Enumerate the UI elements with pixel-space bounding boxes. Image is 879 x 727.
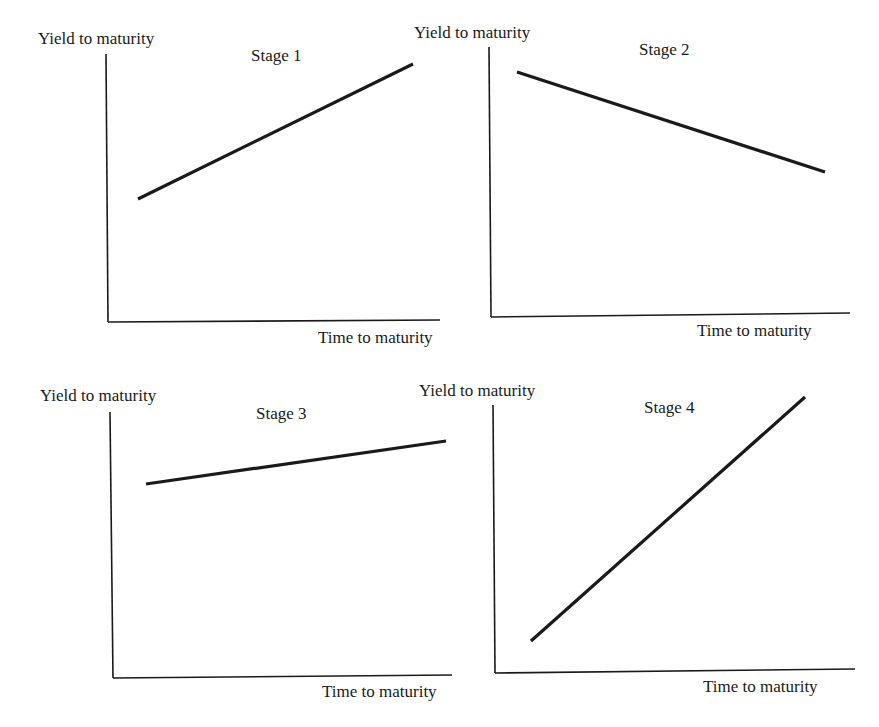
panel-4-y-axis-label: Yield to maturity bbox=[419, 382, 535, 399]
panel-2-title: Stage 2 bbox=[639, 41, 690, 58]
panel-4-title: Stage 4 bbox=[644, 399, 695, 416]
panel-1-y-axis-label: Yield to maturity bbox=[38, 30, 154, 47]
panel-4-x-axis bbox=[495, 669, 855, 673]
panel-4-yield-curve bbox=[531, 397, 805, 641]
panel-2-y-axis-label: Yield to maturity bbox=[414, 24, 530, 41]
panel-1-title: Stage 1 bbox=[251, 47, 302, 64]
panel-2-x-axis bbox=[491, 313, 850, 317]
yield-curve-stages-figure: Yield to maturity Stage 1 Time to maturi… bbox=[0, 0, 879, 727]
panel-3-x-axis-label: Time to maturity bbox=[322, 683, 437, 700]
panel-3-yield-curve bbox=[146, 441, 446, 484]
panel-1-y-axis bbox=[106, 54, 108, 322]
plot-canvas bbox=[0, 0, 879, 727]
panel-2-y-axis bbox=[489, 47, 491, 317]
panel-4-y-axis bbox=[493, 405, 495, 673]
panel-1-axes bbox=[106, 54, 440, 322]
panel-4-x-axis-label: Time to maturity bbox=[703, 678, 818, 695]
panel-3-title: Stage 3 bbox=[256, 405, 307, 422]
panel-3-y-axis bbox=[110, 412, 113, 678]
panel-2-axes bbox=[489, 47, 850, 317]
panel-1-yield-curve bbox=[138, 64, 413, 199]
panel-2-x-axis-label: Time to maturity bbox=[697, 322, 812, 339]
panel-3-x-axis bbox=[113, 675, 452, 678]
panel-3-axes bbox=[110, 412, 452, 678]
panel-3-y-axis-label: Yield to maturity bbox=[40, 387, 156, 404]
panel-4-axes bbox=[493, 405, 855, 673]
panel-2-yield-curve bbox=[517, 72, 825, 172]
panel-1-x-axis-label: Time to maturity bbox=[318, 329, 433, 346]
panel-1-x-axis bbox=[108, 320, 440, 322]
